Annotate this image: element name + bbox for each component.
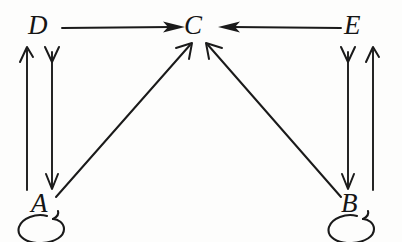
edge-d-to-a [45,47,59,189]
node-label-a: A [31,190,48,217]
node-label-b: B [341,190,358,217]
edge-a-to-c [56,43,192,197]
node-label-e: E [344,12,361,39]
edge-d-to-c [62,22,185,33]
edge-b-to-e [366,47,379,190]
edge-e-to-c [218,22,341,33]
edge-e-to-b [341,47,355,189]
node-label-d: D [28,12,48,39]
edge-b-to-c [206,43,341,197]
node-label-c: C [184,12,203,39]
directed-graph-diagram: D C E A B [0,0,402,242]
edge-a-to-d [20,47,33,190]
